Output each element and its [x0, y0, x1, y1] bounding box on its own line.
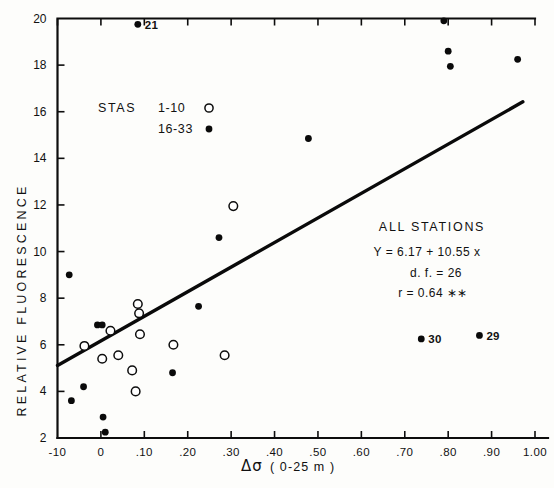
y-tick-label: 16 — [33, 105, 47, 119]
data-point — [136, 330, 145, 339]
y-tick-label: 6 — [40, 338, 47, 352]
data-point — [440, 17, 447, 24]
y-tick-label: 4 — [40, 384, 47, 398]
stats-heading: ALL STATIONS — [379, 220, 485, 234]
legend-title: STAS — [98, 101, 136, 115]
y-tick-label: 8 — [40, 291, 47, 305]
point-label: 30 — [428, 333, 441, 345]
data-point — [99, 322, 106, 329]
data-point — [220, 351, 229, 360]
y-tick-labels: 2468101214161820 — [33, 12, 47, 446]
point-label: 29 — [486, 330, 499, 342]
data-point — [80, 383, 87, 390]
data-point — [447, 63, 454, 70]
x-axis-title: Δσ ( 0-25 m ) — [241, 457, 335, 475]
data-point — [169, 369, 176, 376]
data-point — [106, 326, 115, 335]
y-tick-label: 14 — [33, 151, 47, 165]
data-point — [114, 351, 123, 360]
point-label: 21 — [145, 19, 159, 31]
data-point — [305, 135, 312, 142]
legend-marker-open-circle-icon — [205, 104, 213, 112]
scatter-plot: -100.10.20.30.40.50.60.70.80.901.00 2468… — [0, 0, 554, 488]
x-tick-label: .90 — [483, 446, 500, 458]
data-point — [80, 342, 89, 351]
x-tick-label: .30 — [223, 446, 240, 458]
series-stas-1-10-points — [80, 202, 237, 396]
data-point — [169, 340, 178, 349]
data-point — [68, 397, 75, 404]
data-point — [134, 21, 141, 28]
stats-block: ALL STATIONS Y = 6.17 + 10.55 x d. f. = … — [374, 220, 486, 300]
data-point — [131, 387, 140, 396]
data-point — [100, 414, 107, 421]
y-tick-label: 2 — [40, 431, 47, 445]
stats-correlation: r = 0.64 ∗∗ — [398, 286, 468, 300]
legend: STAS 1-10 16-33 — [98, 101, 213, 136]
y-tick-label: 18 — [33, 58, 47, 72]
x-tick-label: .40 — [266, 446, 283, 458]
data-point — [128, 366, 137, 375]
x-tick-labels: -100.10.20.30.40.50.60.70.80.901.00 — [49, 446, 547, 458]
y-tick-label: 12 — [33, 198, 47, 212]
x-tick-label: 1.00 — [523, 446, 547, 458]
data-point — [134, 300, 143, 309]
x-tick-label: .60 — [353, 446, 370, 458]
data-point — [66, 271, 73, 278]
data-point — [216, 234, 223, 241]
x-tick-label: .20 — [179, 446, 196, 458]
data-point — [98, 354, 107, 363]
y-axis-title: RELATIVE FLUORESCENCE — [15, 184, 29, 417]
data-point — [476, 332, 483, 339]
x-tick-label: -10 — [49, 446, 67, 458]
data-point — [102, 429, 109, 436]
y-tick-label: 20 — [33, 12, 47, 26]
x-tick-label: .50 — [309, 446, 326, 458]
data-point — [418, 336, 425, 343]
figure-canvas: -100.10.20.30.40.50.60.70.80.901.00 2468… — [0, 0, 554, 488]
legend-marker-filled-circle-icon — [206, 126, 213, 133]
y-tick-label: 10 — [33, 245, 47, 259]
data-point — [514, 56, 521, 63]
data-point — [195, 303, 202, 310]
x-axis-title-suffix: ( 0-25 m ) — [270, 460, 335, 474]
data-point — [229, 202, 238, 211]
x-tick-label: 0 — [98, 446, 105, 458]
legend-range-2: 16-33 — [158, 122, 193, 136]
data-point — [445, 48, 452, 55]
stats-equation: Y = 6.17 + 10.55 x — [374, 245, 481, 259]
x-tick-label: .70 — [396, 446, 413, 458]
x-axis-title-symbol: Δσ — [241, 457, 263, 475]
data-point — [135, 309, 144, 318]
stats-degrees-freedom: d. f. = 26 — [410, 266, 462, 280]
x-tick-label: .80 — [440, 446, 457, 458]
legend-range-1: 1-10 — [158, 101, 185, 115]
x-tick-label: .10 — [136, 446, 153, 458]
